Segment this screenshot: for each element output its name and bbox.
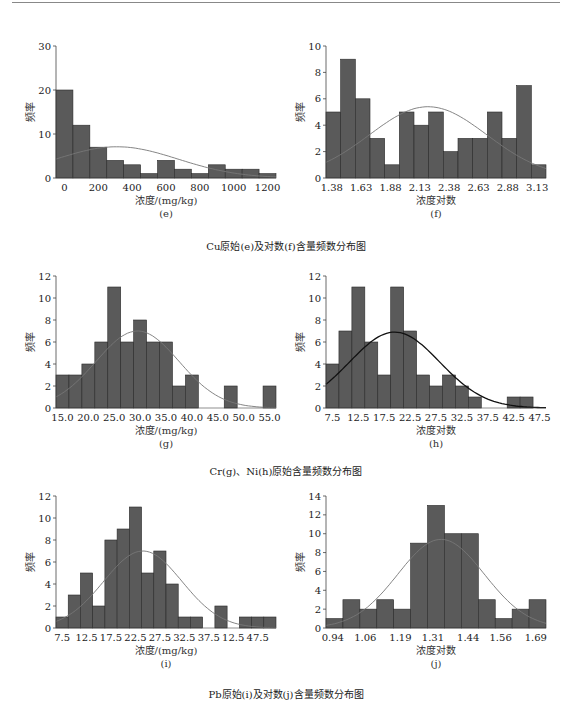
bars (326, 287, 533, 408)
x-tick-label: 400 (123, 182, 142, 193)
histogram-i-pb-raw: 0246810127.512.517.522.527.532.537.512.5… (22, 488, 284, 680)
x-tick-label: 12.5 (347, 412, 369, 423)
chart-svg: 02468101215.020.025.030.035.040.045.050.… (22, 268, 284, 460)
x-tick-label: 1.44 (457, 632, 479, 643)
histogram-bar (428, 505, 445, 628)
histogram-bar (458, 138, 473, 178)
histogram-bar (142, 573, 154, 628)
y-tick-label: 8 (45, 315, 51, 326)
histogram-bar (174, 169, 191, 178)
x-tick-label: 1.88 (379, 182, 401, 193)
caption-cu: Cu原始(e)及对数(f)含量频数分布图 (0, 238, 572, 253)
y-tick-label: 12 (38, 491, 51, 502)
y-tick-label: 14 (308, 491, 321, 502)
histogram-j-pb-log: 024681012140.941.061.191.311.441.561.69浓… (292, 488, 554, 680)
histogram-bar (529, 600, 546, 628)
histogram-h-ni-raw: 0246810127.512.517.522.527.532.537.542.5… (292, 268, 554, 460)
x-axis-label: 浓度/(mg/kg) (135, 194, 198, 206)
histogram-bar (108, 287, 121, 408)
y-tick-label: 10 (308, 41, 321, 52)
histogram-bar (404, 331, 417, 408)
chart-svg: 0246810127.512.517.522.527.532.537.512.5… (22, 488, 284, 680)
histogram-bar (215, 606, 227, 628)
histogram-bar (242, 169, 259, 178)
histogram-e-cu-raw: 0102030020040060080010001200浓度/(mg/kg)(e… (22, 38, 284, 230)
histogram-bar (473, 138, 488, 178)
x-tick-label: 37.5 (198, 632, 220, 643)
x-tick-label: 1.69 (525, 632, 547, 643)
chart-sublabel: (h) (429, 438, 443, 449)
x-tick-label: 600 (156, 182, 175, 193)
x-tick-label: 25.0 (103, 412, 125, 423)
histogram-bar (326, 619, 343, 628)
histogram-bar (355, 99, 370, 178)
histogram-bar (339, 331, 352, 408)
chart-sublabel: (i) (160, 658, 171, 669)
x-axis-label: 浓度对数 (416, 644, 456, 656)
x-tick-label: 47.5 (247, 632, 269, 643)
histogram-bar (141, 174, 158, 178)
histogram-bar (56, 375, 69, 408)
histogram-bar (147, 342, 160, 408)
y-axis-label: 频率 (24, 552, 36, 572)
bars (56, 90, 276, 178)
x-tick-label: 1.06 (354, 632, 376, 643)
y-tick-label: 6 (315, 93, 321, 104)
y-tick-label: 6 (315, 337, 321, 348)
y-tick-label: 12 (38, 271, 51, 282)
chart-sublabel: (e) (159, 208, 173, 219)
y-tick-label: 30 (38, 41, 51, 52)
histogram-bar (461, 534, 478, 628)
histogram-bar (365, 342, 378, 408)
y-tick-label: 0 (315, 403, 321, 414)
x-tick-label: 30.0 (129, 412, 151, 423)
y-tick-label: 0 (45, 173, 51, 184)
bars (326, 505, 546, 628)
x-tick-label: 42.5 (503, 412, 525, 423)
x-tick-label: 1.19 (389, 632, 411, 643)
x-tick-label: 12.5 (75, 632, 97, 643)
histogram-bar (95, 342, 108, 408)
histogram-bar (190, 617, 202, 628)
y-tick-label: 12 (308, 271, 321, 282)
x-tick-label: 1.31 (422, 632, 444, 643)
histogram-bar (224, 386, 237, 408)
histogram-bar (455, 386, 468, 408)
x-tick-label: 55.0 (258, 412, 280, 423)
y-tick-label: 10 (38, 513, 51, 524)
chart-svg: 024681012140.941.061.191.311.441.561.69浓… (292, 488, 554, 680)
y-tick-label: 10 (38, 293, 51, 304)
histogram-bar (105, 540, 117, 628)
histogram-bar (69, 375, 82, 408)
x-tick-label: 1.38 (321, 182, 343, 193)
y-tick-label: 0 (45, 623, 51, 634)
histogram-bar (417, 375, 430, 408)
histogram-bar (341, 59, 356, 178)
histogram-bar (154, 551, 166, 628)
x-tick-label: 2.88 (497, 182, 519, 193)
x-tick-label: 7.5 (325, 412, 341, 423)
x-tick-label: 35.0 (155, 412, 177, 423)
y-tick-label: 10 (38, 129, 51, 140)
histogram-bar (378, 375, 391, 408)
y-axis-label: 频率 (294, 552, 306, 572)
histogram-bar (264, 617, 276, 628)
histogram-bar (121, 342, 134, 408)
x-tick-label: 12.5 (222, 632, 244, 643)
x-tick-label: 3.13 (526, 182, 548, 193)
histogram-bar (517, 86, 532, 178)
caption-pb: Pb原始(i)及对数(j)含量频数分布图 (0, 686, 572, 701)
x-tick-label: 2.13 (409, 182, 431, 193)
histogram-g-cr-raw: 02468101215.020.025.030.035.040.045.050.… (22, 268, 284, 460)
x-tick-label: 0.94 (322, 632, 344, 643)
x-tick-label: 800 (190, 182, 209, 193)
x-tick-label: 27.5 (149, 632, 171, 643)
y-tick-label: 20 (38, 85, 51, 96)
x-tick-label: 47.5 (528, 412, 550, 423)
y-tick-label: 8 (315, 67, 321, 78)
x-tick-label: 20.0 (77, 412, 99, 423)
histogram-bar (134, 320, 147, 408)
histogram-bar (326, 364, 339, 408)
y-axis-label: 频率 (294, 102, 306, 122)
histogram-bar (502, 138, 517, 178)
